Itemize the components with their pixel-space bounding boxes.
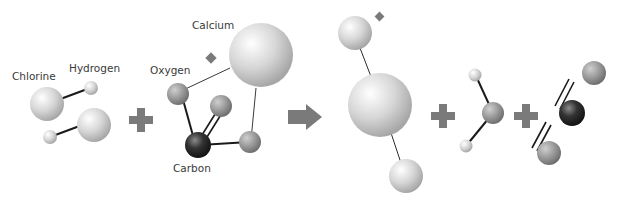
chlorine-label: Chlorine <box>12 70 56 82</box>
calcium-label: Calcium <box>192 19 234 31</box>
oxygen-atom <box>582 61 606 85</box>
plus-icon <box>514 104 538 128</box>
hydrogen-label: Hydrogen <box>69 62 120 74</box>
oxygen-label: Oxygen <box>150 64 190 76</box>
carbon-dioxide-molecule <box>532 61 606 165</box>
oxygen-atom <box>482 102 504 124</box>
hydrogen-atom <box>469 69 482 82</box>
diamond-icon <box>205 52 216 63</box>
chlorine-atom <box>338 16 372 50</box>
hydrogen-atom <box>43 130 57 144</box>
oxygen-atom <box>537 141 561 165</box>
reaction-diagram: Chlorine Hydrogen Calcium Oxygen Carbon <box>0 0 618 204</box>
plus-icon <box>129 108 153 132</box>
oxygen-atom <box>167 83 189 105</box>
oxygen-atom <box>239 131 261 153</box>
chlorine-atom <box>389 159 423 193</box>
diamond-icon <box>375 12 385 22</box>
chlorine-atom <box>77 108 111 142</box>
chlorine-atom <box>30 87 64 121</box>
hydrogen-atom <box>460 140 473 153</box>
calcium-carbonate-molecule: Calcium Oxygen Carbon <box>150 19 293 174</box>
plus-icon <box>431 104 455 128</box>
hydrogen-atom <box>84 81 98 95</box>
calcium-chloride-molecule <box>338 12 423 193</box>
hcl-molecules: Chlorine Hydrogen <box>12 62 120 144</box>
carbon-label: Carbon <box>173 162 211 174</box>
calcium-atom <box>229 23 293 87</box>
carbon-atom <box>185 132 211 158</box>
water-molecule <box>460 69 505 153</box>
carbon-atom <box>559 100 585 126</box>
arrow-right-icon <box>288 104 322 130</box>
calcium-atom <box>348 73 412 137</box>
oxygen-atom <box>210 95 232 117</box>
